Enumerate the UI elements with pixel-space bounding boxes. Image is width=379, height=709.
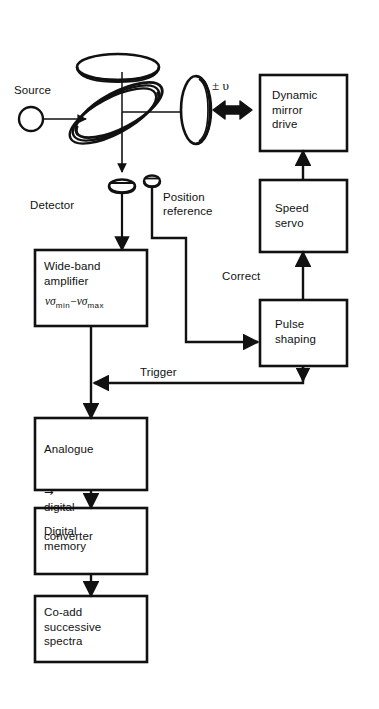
label-wide-band-amplifier: Wide-band amplifier xyxy=(44,259,101,288)
formula-left-symbol: νσ xyxy=(45,295,56,307)
detector-label: Detector xyxy=(30,198,74,212)
adc-line-1: Analogue xyxy=(44,442,93,457)
adc-line-2-text: digital xyxy=(44,501,75,513)
position-reference-label: Position reference xyxy=(163,190,212,218)
label-dynamic-mirror-drive: Dynamic mirror drive xyxy=(272,88,317,132)
trigger-label: Trigger xyxy=(140,365,177,379)
formula-left-sub: min xyxy=(56,301,70,310)
source-circle-icon xyxy=(19,107,43,131)
fixed-mirror-disc-icon xyxy=(77,54,159,82)
formula-right-sub: max xyxy=(87,301,104,310)
label-co-add-successive-spectra: Co-add successive spectra xyxy=(44,605,101,649)
velocity-label: ± υ xyxy=(212,78,229,94)
beamsplitter-disc-icon xyxy=(62,72,170,155)
label-digital-memory: Digital memory xyxy=(44,524,86,553)
formula-right-symbol: νσ xyxy=(77,295,88,307)
label-speed-servo: Speed servo xyxy=(275,201,309,230)
position-reference-icon xyxy=(144,176,160,188)
detector-icon xyxy=(109,180,135,194)
source-label: Source xyxy=(14,83,51,97)
adc-line-2: → digital xyxy=(44,471,93,515)
moving-mirror-disc-icon xyxy=(181,76,211,144)
diagram-canvas: Source ± υ Detector Position reference W… xyxy=(0,0,379,709)
double-headed-arrow-icon xyxy=(213,101,252,119)
right-arrow-icon: → xyxy=(44,485,54,499)
label-amplifier-formula: νσmin−νσmax xyxy=(45,295,104,310)
trigger-line xyxy=(94,366,303,383)
correct-label: Correct xyxy=(222,269,260,283)
block-diagram-svg xyxy=(0,0,379,709)
label-pulse-shaping: Pulse shaping xyxy=(275,317,316,346)
